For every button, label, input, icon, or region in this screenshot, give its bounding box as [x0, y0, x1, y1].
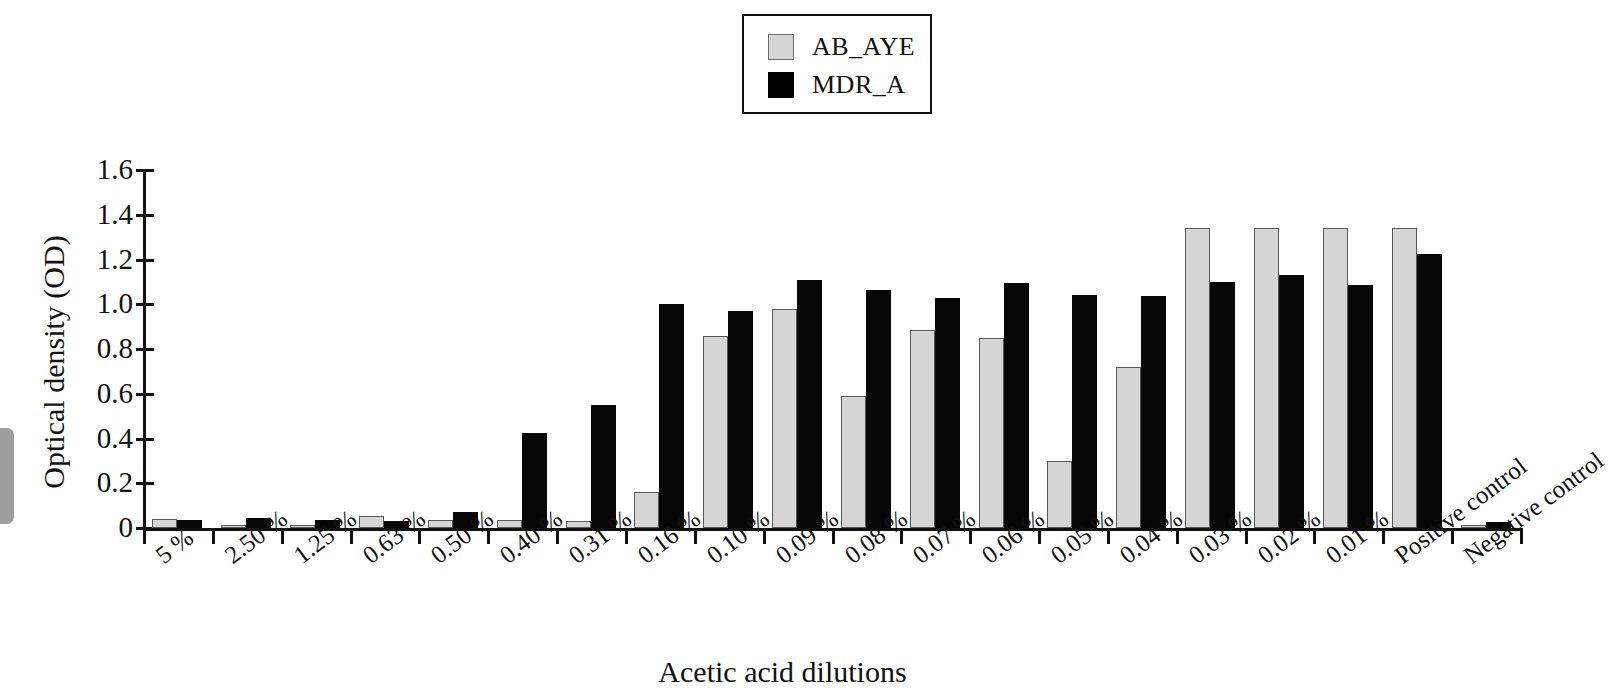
- x-axis-category-label: 0.05 %: [1046, 505, 1118, 568]
- x-axis-category-label: 0.04 %: [1115, 505, 1187, 568]
- x-axis-category-label: 0.40 %: [495, 505, 567, 568]
- x-axis-category-label: 0.06 %: [977, 505, 1049, 568]
- x-axis-category-label: 0.03 %: [1184, 505, 1256, 568]
- x-axis-category-label: 0.63 %: [358, 505, 430, 568]
- x-axis-category-label: 1.25 %: [289, 505, 361, 568]
- x-axis-category-label: 5 %: [151, 524, 198, 568]
- x-axis-category-label: 0.08 %: [840, 505, 912, 568]
- x-axis-category-label: 0.16 %: [633, 505, 705, 568]
- x-axis-category-label: 2.50 %: [220, 505, 292, 568]
- x-axis-category-label: 0.01 %: [1321, 505, 1393, 568]
- x-axis-category-label: 0.09 %: [771, 505, 843, 568]
- x-axis-category-label: 0.02 %: [1253, 505, 1325, 568]
- x-axis-category-label: 0.07 %: [908, 505, 980, 568]
- x-axis-category-label: 0.10 %: [702, 505, 774, 568]
- x-axis-category-label: 0.31 %: [564, 505, 636, 568]
- x-axis-category-label: 0.50 %: [426, 505, 498, 568]
- x-axis-title: Acetic acid dilutions: [0, 655, 1565, 689]
